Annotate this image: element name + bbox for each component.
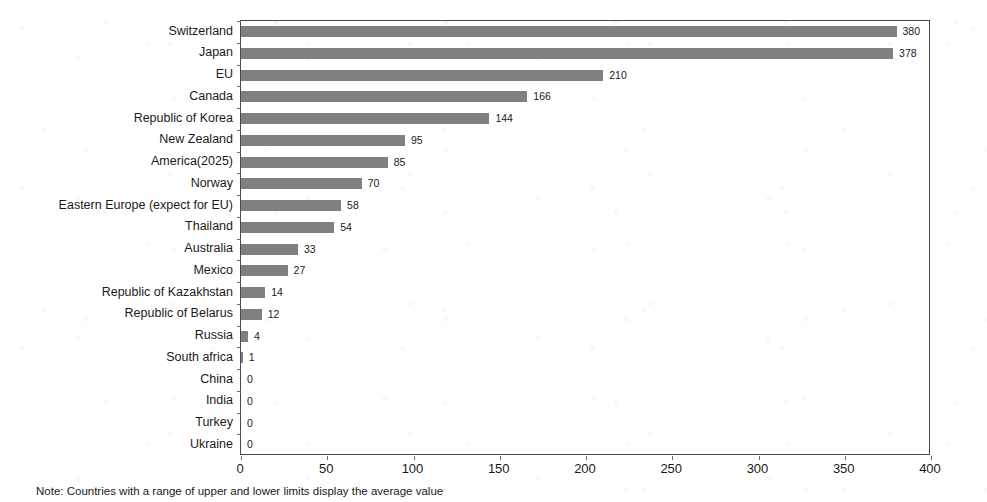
bar-row: 14 — [241, 282, 929, 304]
value-axis-tick-label: 300 — [728, 461, 788, 477]
bar-row: 4 — [241, 326, 929, 348]
category-label: Japan — [0, 45, 233, 59]
category-label: India — [0, 393, 233, 407]
bar — [241, 135, 405, 146]
value-axis-tick-label: 50 — [296, 461, 356, 477]
category-label: Australia — [0, 241, 233, 255]
value-axis-tick — [327, 456, 328, 460]
category-label: New Zealand — [0, 132, 233, 146]
bar — [241, 265, 288, 276]
bar-row: 54 — [241, 217, 929, 239]
bar-value-label: 33 — [304, 242, 316, 256]
value-axis-tick-label: 100 — [383, 461, 443, 477]
value-axis-tick-label: 250 — [641, 461, 701, 477]
value-axis-tick-label: 0 — [210, 461, 270, 477]
bar-value-label: 0 — [247, 437, 253, 451]
value-axis-tick-label: 150 — [469, 461, 529, 477]
category-label: Eastern Europe (expect for EU) — [0, 198, 233, 212]
bar-row: 0 — [241, 369, 929, 391]
chart-note: Note: Countries with a range of upper an… — [36, 484, 443, 498]
category-label: America(2025) — [0, 154, 233, 168]
category-label: South africa — [0, 350, 233, 364]
bar-chart-figure: SwitzerlandJapanEUCanadaRepublic of Kore… — [0, 0, 987, 502]
bar-value-label: 1 — [249, 350, 255, 364]
bar-value-label: 85 — [394, 155, 406, 169]
category-label: Switzerland — [0, 24, 233, 38]
bar-row: 95 — [241, 130, 929, 152]
category-label: Mexico — [0, 263, 233, 277]
bar-value-label: 27 — [294, 263, 306, 277]
bar — [241, 222, 334, 233]
category-label: Turkey — [0, 415, 233, 429]
bar-row: 378 — [241, 43, 929, 65]
bar — [241, 91, 527, 102]
category-label: EU — [0, 67, 233, 81]
bar-value-label: 95 — [411, 133, 423, 147]
category-label: Republic of Korea — [0, 111, 233, 125]
bar-value-label: 210 — [609, 68, 627, 82]
bar — [241, 70, 603, 81]
value-axis-tick-label: 400 — [900, 461, 960, 477]
bar — [241, 331, 248, 342]
value-axis-tick — [500, 456, 501, 460]
bar — [241, 352, 243, 363]
bar-row: 85 — [241, 152, 929, 174]
value-axis-tick-label: 200 — [555, 461, 615, 477]
value-axis-tick — [845, 456, 846, 460]
value-axis-tick — [414, 456, 415, 460]
bar — [241, 113, 489, 124]
value-axis-tick — [759, 456, 760, 460]
bar — [241, 244, 298, 255]
value-axis-tick — [931, 456, 932, 460]
bar-row: 166 — [241, 86, 929, 108]
category-label: Norway — [0, 176, 233, 190]
bar-row: 12 — [241, 304, 929, 326]
bar-value-label: 380 — [903, 24, 921, 38]
bar-value-label: 14 — [271, 285, 283, 299]
category-label: Republic of Kazakhstan — [0, 285, 233, 299]
plot-area: 380378210166144958570585433271412410000 — [240, 20, 930, 455]
category-label: Canada — [0, 89, 233, 103]
bar-value-label: 12 — [268, 307, 280, 321]
bar — [241, 309, 262, 320]
category-label: Thailand — [0, 219, 233, 233]
bar — [241, 200, 341, 211]
value-axis-tick-label: 350 — [814, 461, 874, 477]
bar-value-label: 166 — [533, 89, 551, 103]
bar-row: 70 — [241, 173, 929, 195]
bar-row: 144 — [241, 108, 929, 130]
value-axis-tick — [241, 456, 242, 460]
bar — [241, 48, 893, 59]
category-label: Russia — [0, 328, 233, 342]
bar — [241, 178, 362, 189]
bar — [241, 157, 388, 168]
bar-value-label: 144 — [495, 111, 513, 125]
bar-row: 27 — [241, 260, 929, 282]
value-axis-tick — [672, 456, 673, 460]
bar-value-label: 58 — [347, 198, 359, 212]
bar-value-label: 0 — [247, 416, 253, 430]
bar-row: 0 — [241, 391, 929, 413]
category-label: Republic of Belarus — [0, 306, 233, 320]
bar-value-label: 4 — [254, 329, 260, 343]
bar-row: 0 — [241, 434, 929, 456]
bar-value-label: 378 — [899, 46, 917, 60]
category-label: Ukraine — [0, 437, 233, 451]
bar-value-label: 0 — [247, 372, 253, 386]
bar-value-label: 70 — [368, 176, 380, 190]
bar-value-label: 54 — [340, 220, 352, 234]
bar — [241, 287, 265, 298]
bar — [241, 26, 897, 37]
value-axis-tick — [586, 456, 587, 460]
bar-row: 1 — [241, 347, 929, 369]
bar-value-label: 0 — [247, 394, 253, 408]
bar-row: 210 — [241, 65, 929, 87]
bar-row: 58 — [241, 195, 929, 217]
bar-row: 380 — [241, 21, 929, 43]
bar-row: 33 — [241, 239, 929, 261]
bar-row: 0 — [241, 413, 929, 435]
category-label: China — [0, 372, 233, 386]
